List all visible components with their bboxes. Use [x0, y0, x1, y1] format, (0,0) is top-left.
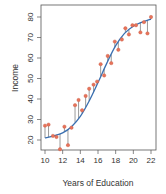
data-point [134, 24, 137, 27]
x-tick-label: 12 [58, 156, 67, 165]
data-point [117, 48, 120, 51]
x-tick-label: 20 [129, 156, 138, 165]
y-tick-label: 60 [26, 53, 35, 62]
data-point [51, 134, 54, 137]
data-point [92, 83, 95, 86]
data-point [110, 61, 113, 64]
data-point [43, 124, 46, 127]
data-point [63, 125, 66, 128]
data-point [55, 135, 58, 138]
data-point [95, 80, 98, 83]
plot-frame [41, 5, 156, 150]
data-point [131, 24, 134, 27]
x-tick-label: 18 [111, 156, 120, 165]
data-point [124, 27, 127, 30]
data-point [120, 38, 123, 41]
data-point [84, 94, 87, 97]
x-axis-label: Years of Education [62, 178, 133, 188]
x-tick-label: 22 [147, 156, 156, 165]
y-tick-label: 70 [26, 33, 35, 42]
data-point [47, 123, 50, 126]
y-tick-label: 30 [26, 115, 35, 124]
data-points [43, 15, 152, 151]
data-point [80, 109, 83, 112]
x-tick-label: 10 [41, 156, 50, 165]
x-tick-label: 14 [76, 156, 85, 165]
y-axis: 20304050607080 [26, 12, 41, 144]
y-tick-label: 40 [26, 94, 35, 103]
data-point [87, 87, 90, 90]
fit-curve [45, 19, 151, 138]
data-point [66, 143, 69, 146]
income-vs-education-chart: 10121416182022 20304050607080 Years of E… [0, 0, 166, 194]
y-axis-label: Income [10, 64, 20, 92]
data-point [102, 74, 105, 77]
y-tick-label: 20 [26, 135, 35, 144]
y-tick-label: 50 [26, 74, 35, 83]
data-point [127, 33, 130, 36]
data-point [139, 31, 142, 34]
data-point [70, 126, 73, 129]
data-point [113, 40, 116, 43]
data-point [99, 62, 102, 65]
data-point [106, 54, 109, 57]
data-point [77, 98, 80, 101]
data-point [58, 148, 61, 151]
x-axis: 10121416182022 [41, 150, 156, 165]
y-tick-label: 80 [26, 12, 35, 21]
x-tick-label: 16 [94, 156, 103, 165]
data-point [142, 20, 145, 23]
data-point [149, 15, 152, 18]
data-point [146, 32, 149, 35]
data-point [73, 103, 76, 106]
